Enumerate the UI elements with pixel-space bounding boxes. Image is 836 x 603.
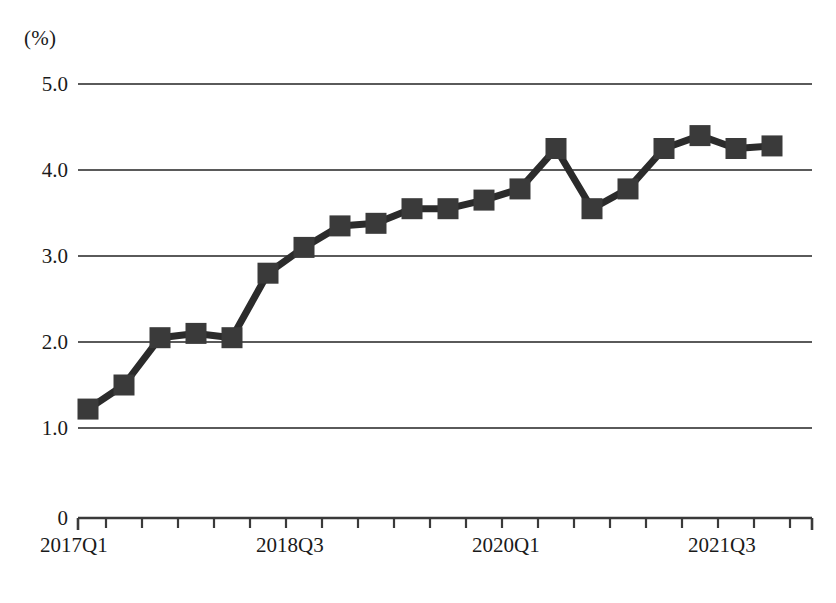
- x-axis-tick-label: 2021Q3: [688, 533, 756, 558]
- x-axis-tick-label: 2018Q3: [256, 533, 324, 558]
- x-axis-tick-label: 2020Q1: [472, 533, 540, 558]
- x-axis-tick-label: 2017Q1: [40, 533, 108, 558]
- figure-caption: [0, 592, 836, 603]
- x-axis-tick-labels: 2017Q12018Q32020Q12021Q3: [0, 0, 836, 603]
- chart-figure: (%) 5.04.03.02.01.00 2017Q12018Q32020Q12…: [0, 0, 836, 603]
